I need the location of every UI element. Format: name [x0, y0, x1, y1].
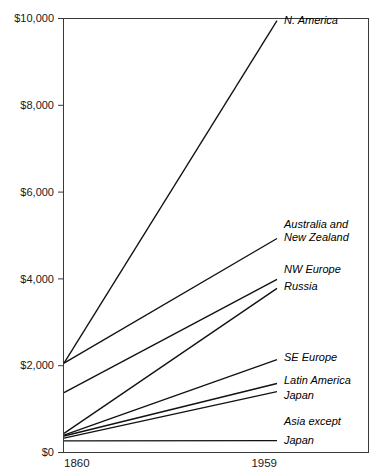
series-line-se-europe — [64, 360, 277, 436]
line-chart: $10,000 $8,000 $6,000 $4,000 $2,000 $0 1… — [0, 0, 382, 476]
series-line-russia — [64, 288, 277, 433]
series-lines — [64, 21, 277, 441]
series-label-japan: Japan — [283, 389, 314, 401]
y-axis-label-10000: $10,000 — [14, 12, 54, 24]
series-line-australia-new-zealand — [64, 239, 277, 364]
series-line-latin-america — [64, 384, 277, 437]
series-line-nw-europe — [64, 279, 277, 392]
series-label-nw-europe: NW Europe — [284, 263, 341, 275]
y-axis-label-0: $0 — [42, 446, 54, 458]
series-label-russia: Russia — [284, 280, 318, 292]
x-axis-labels: 1860 1959 — [64, 457, 277, 469]
x-axis-label-1959: 1959 — [251, 457, 277, 469]
y-axis-label-6000: $6,000 — [20, 186, 54, 198]
series-label-asia-except-japan-line1: Asia except — [283, 415, 342, 427]
series-line-japan — [64, 392, 277, 439]
series-label-australia-new-zealand-line2: New Zealand — [284, 231, 350, 243]
y-axis-label-2000: $2,000 — [20, 359, 54, 371]
y-axis-ticks — [58, 19, 64, 453]
series-label-asia-except-japan-line2: Japan — [283, 434, 314, 446]
x-axis-label-1860: 1860 — [64, 457, 90, 469]
series-label-latin-america: Latin America — [284, 374, 351, 386]
y-axis-labels: $10,000 $8,000 $6,000 $4,000 $2,000 $0 — [14, 12, 54, 458]
chart-container: $10,000 $8,000 $6,000 $4,000 $2,000 $0 1… — [0, 0, 382, 476]
y-axis-label-8000: $8,000 — [20, 99, 54, 111]
series-label-n-america: N. America — [284, 14, 338, 26]
y-axis-label-4000: $4,000 — [20, 273, 54, 285]
series-line-n-america — [64, 21, 277, 363]
series-label-australia-new-zealand-line1: Australia and — [283, 218, 349, 230]
series-label-se-europe: SE Europe — [284, 351, 337, 363]
series-labels: N. America Australia and New Zealand NW … — [283, 14, 351, 446]
